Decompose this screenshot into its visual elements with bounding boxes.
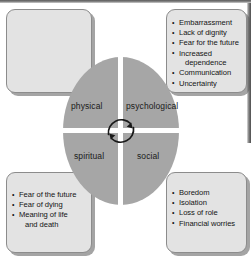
circular-cycle-arrow-icon (100, 110, 142, 152)
list-item: Loss of role (172, 208, 243, 218)
list-item-text: Loss of role (179, 208, 218, 217)
list-item-text: Meaning of life (19, 210, 68, 219)
scan-artifact-top-edge (0, 0, 251, 3)
list-item-text: Financial worries (179, 219, 235, 228)
list-item: Increaseddependence (172, 49, 243, 68)
list-item: Lack of dignity (172, 28, 243, 38)
list-item-text: Increased (179, 49, 212, 58)
list-item: Communication (172, 68, 243, 78)
quadrant-label-social: social (137, 151, 159, 161)
diagram-canvas: Embarrassment Lack of dignity Fear for t… (0, 0, 251, 262)
list-item-text: Uncertainty (179, 79, 217, 88)
list-item: Fear for the future (172, 38, 243, 48)
quadrant-label-spiritual: spiritual (74, 151, 104, 161)
list-item-text: Fear for the future (179, 38, 239, 47)
list-item-text: Communication (179, 68, 231, 77)
list-item: Financial worries (172, 219, 243, 229)
list-item-text: Fear of dying (19, 200, 63, 209)
scan-artifact-right-edge (247, 3, 251, 143)
physical-box-list (7, 10, 91, 18)
quadrant-circle: physical psychological spiritual social (63, 57, 179, 205)
list-item: Meaning of lifeand death (12, 210, 88, 229)
list-item-text-continuation: and death (19, 220, 88, 230)
list-item: Uncertainty (172, 79, 243, 89)
list-item-text-continuation: dependence (179, 58, 243, 68)
list-item-text: Embarrassment (179, 18, 232, 27)
list-item: Isolation (172, 198, 243, 208)
list-item: Boredom (172, 188, 243, 198)
list-item: Embarrassment (172, 18, 243, 28)
quadrant-label-physical: physical (71, 101, 103, 111)
list-item-text: Lack of dignity (179, 28, 227, 37)
list-item-text: Isolation (179, 198, 207, 207)
list-item-text: Boredom (179, 188, 209, 197)
